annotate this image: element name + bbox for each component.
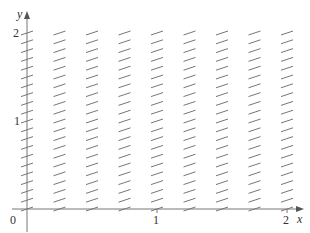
slope-segment (119, 75, 131, 79)
slope-segment (151, 93, 163, 97)
slope-segments (21, 31, 293, 211)
slope-segment (249, 137, 261, 141)
slope-segment (184, 172, 196, 176)
slope-segment (281, 119, 293, 123)
slope-segment (281, 198, 293, 202)
slope-segment (184, 66, 196, 70)
slope-segment (281, 154, 293, 158)
slope-segment (216, 154, 228, 158)
origin-label: 0 (10, 213, 16, 227)
slope-segment (54, 163, 66, 167)
slope-segment (86, 31, 98, 35)
slope-segment (54, 181, 66, 185)
slope-segment (184, 163, 196, 167)
slope-segment (216, 49, 228, 53)
slope-segment (281, 84, 293, 88)
slope-segment (54, 198, 66, 202)
slope-segment (86, 75, 98, 79)
slope-segment (54, 119, 66, 123)
slope-segment (249, 163, 261, 167)
slope-segment (151, 119, 163, 123)
slope-segment (151, 110, 163, 114)
slope-segment (151, 66, 163, 70)
slope-segment (54, 137, 66, 141)
y-axis-label: y (16, 7, 23, 21)
slope-segment (119, 145, 131, 149)
slope-segment (54, 172, 66, 176)
slope-segment (119, 181, 131, 185)
slope-segment (54, 110, 66, 114)
slope-segment (216, 101, 228, 105)
slope-segment (216, 172, 228, 176)
slope-segment (249, 57, 261, 61)
slope-segment (281, 172, 293, 176)
slope-segment (281, 101, 293, 105)
slope-segment (281, 137, 293, 141)
slope-segment (86, 198, 98, 202)
slope-segment (249, 31, 261, 35)
slope-segment (119, 40, 131, 44)
slope-segment (151, 137, 163, 141)
slope-segment (216, 137, 228, 141)
slope-segment (54, 49, 66, 53)
slope-segment (54, 66, 66, 70)
slope-segment (184, 84, 196, 88)
slope-segment (281, 31, 293, 35)
slope-segment (281, 93, 293, 97)
slope-segment (151, 40, 163, 44)
slope-segment (86, 93, 98, 97)
slope-segment (151, 101, 163, 105)
slope-segment (184, 40, 196, 44)
slope-segment (151, 181, 163, 185)
slope-segment (281, 66, 293, 70)
slope-segment (249, 119, 261, 123)
slope-segment (151, 198, 163, 202)
slope-segment (86, 137, 98, 141)
slope-segment (151, 84, 163, 88)
slope-segment (216, 66, 228, 70)
slope-segment (54, 84, 66, 88)
slope-segment (54, 75, 66, 79)
y-tick-label-1: 1 (14, 114, 20, 128)
slope-segment (216, 84, 228, 88)
slope-segment (119, 110, 131, 114)
slope-segment (151, 189, 163, 193)
slope-segment (184, 101, 196, 105)
slope-segment (151, 49, 163, 53)
slope-segment (216, 57, 228, 61)
slope-segment (119, 163, 131, 167)
slope-segment (184, 198, 196, 202)
slope-segment (86, 66, 98, 70)
slope-segment (86, 101, 98, 105)
slope-segment (281, 189, 293, 193)
axes (12, 11, 304, 232)
slope-segment (54, 145, 66, 149)
slope-segment (119, 31, 131, 35)
slope-segment (249, 49, 261, 53)
slope-segment (281, 40, 293, 44)
slope-segment (119, 84, 131, 88)
slope-segment (119, 128, 131, 132)
slope-segment (184, 181, 196, 185)
slope-segment (54, 31, 66, 35)
slope-segment (54, 93, 66, 97)
slope-segment (249, 181, 261, 185)
slope-segment (184, 189, 196, 193)
slope-segment (119, 57, 131, 61)
slope-segment (86, 189, 98, 193)
slope-segment (119, 172, 131, 176)
slope-segment (151, 163, 163, 167)
slope-segment (216, 145, 228, 149)
slope-segment (86, 84, 98, 88)
slope-segment (249, 110, 261, 114)
slope-segment (86, 110, 98, 114)
slope-segment (119, 66, 131, 70)
slope-segment (184, 145, 196, 149)
slope-field-plot: y x 0 2 1 1 2 (0, 0, 310, 233)
slope-segment (249, 154, 261, 158)
slope-segment (54, 40, 66, 44)
slope-segment (119, 101, 131, 105)
y-tick-label-2: 2 (13, 26, 19, 40)
slope-segment (249, 145, 261, 149)
slope-segment (249, 101, 261, 105)
